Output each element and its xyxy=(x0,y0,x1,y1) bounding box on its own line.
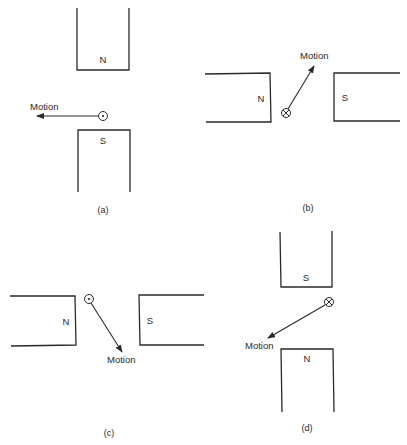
bottom-pole-label: S xyxy=(100,135,106,146)
magnet-conductor-diagram: N S Motion (a) N S Motion (b) N S xyxy=(0,0,407,445)
panel-caption: (a) xyxy=(98,205,109,215)
motion-label: Motion xyxy=(107,354,136,365)
panel-caption: (c) xyxy=(104,428,115,438)
cross-icon xyxy=(325,298,334,307)
panel-caption: (d) xyxy=(302,423,313,433)
motion-arrow xyxy=(91,303,122,352)
panel-a: N S Motion (a) xyxy=(30,8,130,215)
left-pole-label: N xyxy=(258,93,265,104)
top-pole-label: S xyxy=(303,272,309,283)
panel-d: S N Motion (d) xyxy=(245,231,334,433)
dot-icon xyxy=(85,295,94,304)
left-pole-label: N xyxy=(63,316,70,327)
motion-label: Motion xyxy=(30,101,59,112)
dot-icon xyxy=(99,112,108,121)
panel-c: N S Motion (c) xyxy=(10,295,204,439)
motion-label: Motion xyxy=(245,340,274,351)
panel-caption: (b) xyxy=(303,203,314,213)
right-pole-label: S xyxy=(342,92,348,103)
motion-label: Motion xyxy=(300,50,329,61)
top-pole-label: N xyxy=(100,54,107,65)
cross-icon xyxy=(282,109,291,118)
right-pole-label: S xyxy=(147,315,153,326)
motion-arrow xyxy=(268,305,325,338)
panel-b: N S Motion (b) xyxy=(205,50,400,213)
bottom-pole-label: N xyxy=(304,353,311,364)
motion-arrow xyxy=(288,66,314,109)
